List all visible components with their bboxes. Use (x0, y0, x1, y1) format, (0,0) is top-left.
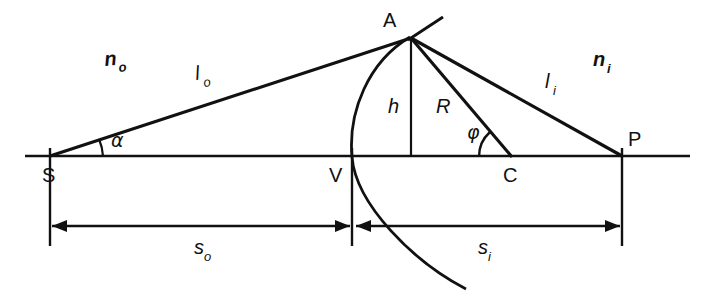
label-index-object-base: n (103, 47, 117, 70)
label-angle-alpha: α (111, 129, 124, 151)
label-point-P: P (628, 128, 641, 150)
label-height-h: h (388, 95, 399, 117)
label-angle-phi: φ (467, 121, 480, 143)
label-ray-image-sub: i (553, 83, 557, 98)
label-point-C: C (503, 164, 517, 186)
label-point-A: A (383, 9, 397, 31)
label-distance-object: s o (194, 236, 211, 264)
angle-alpha-arc (99, 139, 103, 156)
tangent-stub-segment (408, 17, 443, 40)
label-radius-R: R (436, 95, 450, 117)
label-distance-object-sub: o (204, 249, 211, 264)
label-index-object-sub: o (118, 59, 128, 75)
label-index-image-sub: i (607, 61, 611, 76)
optics-refraction-diagram: S V C P A n o n i l o l i h R α (0, 0, 703, 299)
label-ray-image-base: l (545, 70, 550, 92)
label-ray-object-sub: o (202, 74, 211, 90)
angle-phi-arc (479, 132, 490, 157)
diagram-canvas: S V C P A n o n i l o l i h R α (0, 0, 703, 299)
label-ray-object-base: l (193, 61, 201, 83)
label-point-S: S (42, 164, 55, 186)
label-point-V: V (329, 164, 343, 186)
label-index-image-base: n (593, 48, 605, 70)
label-distance-image-base: s (478, 236, 488, 258)
radius-segment (411, 38, 512, 157)
label-distance-object-base: s (194, 236, 204, 258)
label-index-object: n o (103, 47, 127, 75)
label-distance-image-sub: i (488, 249, 492, 264)
label-ray-image: l i (545, 70, 557, 98)
label-ray-object: l o (193, 61, 211, 89)
spherical-surface-arc (351, 37, 466, 289)
label-index-image: n i (593, 48, 611, 76)
label-distance-image: s i (478, 236, 492, 264)
